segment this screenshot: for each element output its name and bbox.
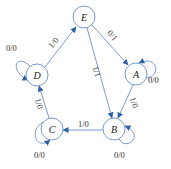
state-b: B: [103, 118, 125, 140]
state-c-label: C: [49, 124, 56, 135]
state-c: C: [41, 118, 63, 140]
edge-label-d-e: 1/0: [46, 35, 61, 50]
state-a-label: A: [132, 69, 140, 80]
state-b-label: B: [111, 124, 117, 135]
edge-label-d-d: 0/0: [6, 43, 17, 53]
state-e-label: E: [80, 12, 87, 23]
edge-label-e-b: 1/1: [90, 65, 103, 78]
edge-label-a-a: 0/0: [148, 75, 159, 85]
state-a: A: [125, 63, 147, 85]
edge-label-a-b: 1/0: [128, 96, 141, 109]
edge-label-c-c: 0/0: [34, 150, 45, 160]
edge-e-b: 1/1: [87, 28, 112, 118]
edge-label-b-b: 0/0: [114, 150, 125, 160]
edge-b-c: 1/0: [63, 119, 103, 130]
edge-label-e-a: 0/1: [105, 28, 120, 43]
edge-e-a: 0/1: [92, 25, 128, 65]
edge-label-c-d: 1/0: [33, 97, 46, 110]
edge-label-b-c: 1/0: [78, 119, 89, 129]
state-diagram: 1/0 0/1 1/1 1/0 1/0 1/0 0/0 0/0 0/0 0/0 …: [0, 0, 171, 169]
edge-d-e: 1/0: [45, 27, 76, 67]
state-d: D: [26, 64, 48, 86]
state-d-label: D: [32, 70, 41, 81]
edge-c-d: 1/0: [33, 86, 49, 118]
state-e: E: [73, 6, 95, 28]
edge-a-b: 1/0: [118, 85, 141, 118]
